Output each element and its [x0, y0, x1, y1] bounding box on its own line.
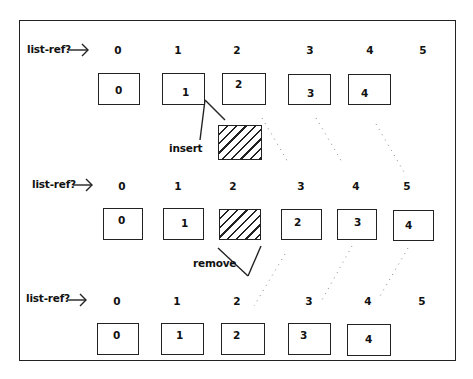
cell-value: 0 — [113, 329, 120, 341]
index-label: 4 — [364, 295, 371, 307]
list-cell: 4 — [348, 74, 391, 105]
list-cell: 3 — [337, 209, 377, 240]
index-label: 3 — [306, 44, 313, 56]
index-label: 0 — [114, 44, 121, 56]
index-label: 5 — [419, 44, 426, 56]
cell-value: 3 — [307, 87, 314, 99]
list-cell: 2 — [221, 323, 265, 355]
index-label: 1 — [174, 44, 181, 56]
list-cell: 3 — [288, 323, 331, 355]
list-cell: 4 — [393, 210, 434, 241]
index-label: 5 — [418, 295, 425, 307]
list-cell: 0 — [97, 323, 139, 355]
list-cell: 4 — [347, 324, 391, 356]
index-label: 5 — [403, 180, 410, 192]
row-label: list-ref? — [27, 43, 71, 55]
index-label: 4 — [352, 180, 359, 192]
index-label: 2 — [233, 295, 240, 307]
cell-value: 1 — [181, 217, 188, 229]
index-label: 1 — [174, 180, 181, 192]
remove-label: remove — [193, 257, 236, 269]
list-cell: 1 — [163, 208, 204, 240]
index-label: 4 — [366, 44, 373, 56]
index-label: 0 — [118, 180, 125, 192]
cell-value: 3 — [354, 216, 361, 228]
cell-value: 1 — [182, 86, 189, 98]
list-cell: 1 — [161, 323, 204, 355]
row-label: list-ref? — [26, 292, 70, 304]
inserted-element — [218, 125, 262, 160]
cell-value: 0 — [118, 214, 125, 226]
index-label: 2 — [229, 180, 236, 192]
cell-value: 4 — [361, 87, 368, 99]
list-cell: 2 — [281, 209, 322, 240]
cell-value: 2 — [294, 216, 301, 228]
cell-value: 3 — [300, 329, 307, 341]
cell-value: 4 — [365, 333, 372, 345]
inserted-element — [219, 209, 261, 240]
list-cell: 0 — [98, 73, 140, 105]
row-label: list-ref? — [32, 178, 76, 190]
cell-value: 0 — [115, 84, 122, 96]
index-label: 0 — [113, 295, 120, 307]
cell-value: 2 — [235, 78, 242, 90]
list-cell: 1 — [162, 73, 205, 105]
cell-value: 2 — [233, 329, 240, 341]
cell-value: 1 — [176, 329, 183, 341]
list-cell: 3 — [288, 74, 331, 105]
index-label: 3 — [297, 180, 304, 192]
index-label: 2 — [233, 44, 240, 56]
list-cell: 2 — [222, 73, 266, 105]
right-arrow-icon — [68, 44, 88, 56]
index-label: 3 — [305, 295, 312, 307]
insert-label: insert — [169, 142, 202, 154]
index-label: 1 — [173, 295, 180, 307]
list-cell: 0 — [103, 208, 143, 240]
cell-value: 4 — [405, 219, 412, 231]
